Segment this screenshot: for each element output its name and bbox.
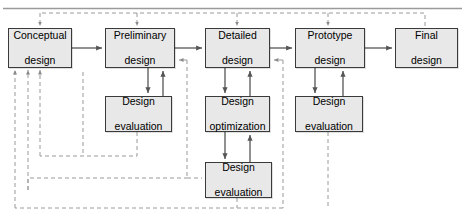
node-design-evaluation-detailed-label: Design evaluation bbox=[211, 161, 267, 199]
node-prototype-design-line1: Prototype bbox=[306, 29, 355, 42]
node-final-design-line1: Final bbox=[409, 29, 444, 42]
node-design-optimization-detailed-line1: Design bbox=[207, 95, 267, 108]
node-design-evaluation-prototype[interactable]: Design evaluation bbox=[295, 96, 363, 132]
node-conceptual-design-label: Conceptual design bbox=[9, 29, 70, 67]
node-design-evaluation-detailed[interactable]: Design evaluation bbox=[205, 162, 272, 198]
node-final-design-label: Final design bbox=[407, 29, 446, 67]
node-preliminary-design-line2: design bbox=[112, 54, 169, 67]
node-detailed-design-line1: Detailed bbox=[216, 29, 259, 42]
node-prototype-design-label: Prototype design bbox=[304, 29, 357, 67]
node-design-evaluation-detailed-line2: evaluation bbox=[213, 186, 265, 199]
node-conceptual-design[interactable]: Conceptual design bbox=[8, 28, 72, 68]
node-design-evaluation-prototype-label: Design evaluation bbox=[301, 95, 357, 133]
lower-feedback-routing bbox=[15, 132, 328, 208]
node-final-design[interactable]: Final design bbox=[395, 28, 458, 68]
node-conceptual-design-line2: design bbox=[11, 54, 68, 67]
node-preliminary-design[interactable]: Preliminary design bbox=[105, 28, 175, 68]
node-prototype-design[interactable]: Prototype design bbox=[295, 28, 365, 68]
node-design-evaluation-preliminary[interactable]: Design evaluation bbox=[105, 96, 172, 132]
node-final-design-line2: design bbox=[409, 54, 444, 67]
node-design-optimization-detailed[interactable]: Design optimization bbox=[205, 96, 270, 132]
node-design-evaluation-detailed-line1: Design bbox=[213, 161, 265, 174]
node-design-evaluation-prototype-line1: Design bbox=[303, 95, 355, 108]
feedback-bus-arrows bbox=[40, 13, 328, 26]
eval-preliminary-return bbox=[40, 132, 137, 156]
node-design-evaluation-prototype-line2: evaluation bbox=[303, 120, 355, 133]
node-detailed-design[interactable]: Detailed design bbox=[205, 28, 270, 68]
node-design-evaluation-preliminary-line1: Design bbox=[113, 95, 165, 108]
node-preliminary-design-label: Preliminary design bbox=[110, 29, 171, 67]
node-detailed-design-label: Detailed design bbox=[214, 29, 261, 67]
node-prototype-design-line2: design bbox=[306, 54, 355, 67]
node-preliminary-design-line1: Preliminary bbox=[112, 29, 169, 42]
design-process-diagram: Conceptual design Preliminary design Det… bbox=[0, 0, 465, 224]
mid-tier-return bbox=[28, 178, 187, 190]
node-conceptual-design-line1: Conceptual bbox=[11, 29, 68, 42]
node-design-optimization-detailed-line2: optimization bbox=[207, 120, 267, 133]
node-design-evaluation-preliminary-label: Design evaluation bbox=[111, 95, 167, 133]
node-detailed-design-line2: design bbox=[216, 54, 259, 67]
node-design-optimization-detailed-label: Design optimization bbox=[205, 95, 269, 133]
node-design-evaluation-preliminary-line2: evaluation bbox=[113, 120, 165, 133]
